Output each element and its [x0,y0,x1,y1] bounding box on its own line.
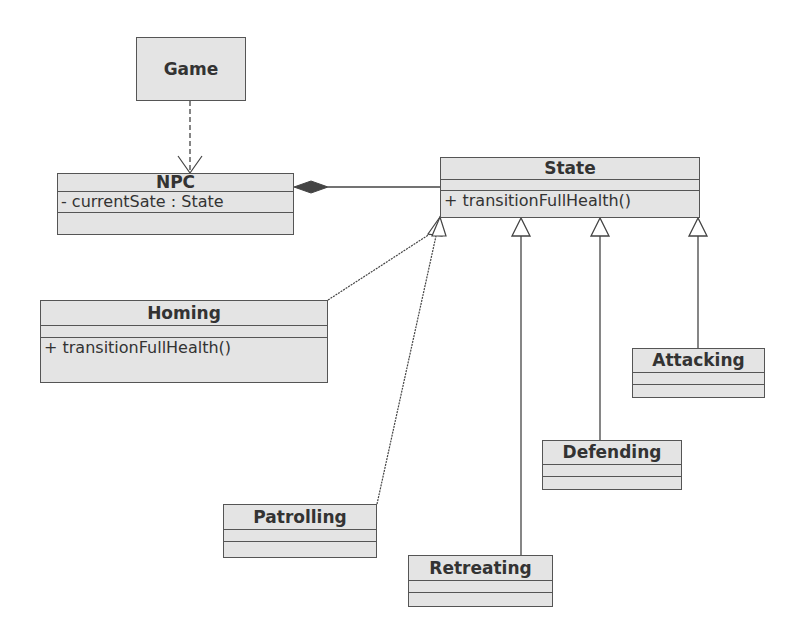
class-defending[interactable]: Defending [542,440,682,490]
class-operations [224,542,376,556]
class-name: Homing [41,301,327,326]
hollow-triangle-icon [689,218,707,236]
class-name: Game [164,59,219,80]
class-retreating[interactable]: Retreating [408,555,553,607]
class-attacking[interactable]: Attacking [632,348,765,398]
class-name: State [441,158,699,180]
class-patrolling[interactable]: Patrolling [223,504,377,558]
hollow-triangle-icon [591,218,609,236]
class-operations: + transitionFullHealth() [41,338,327,358]
class-homing[interactable]: Homing + transitionFullHealth() [40,300,328,383]
class-attributes [41,326,327,338]
hollow-triangle-icon [512,218,530,236]
class-attributes [441,180,699,191]
generalization-line-patrolling [377,236,436,504]
class-attributes: - currentSate : State [58,192,293,213]
class-operations [543,477,681,488]
attribute: - currentSate : State [61,192,293,212]
operation: + transitionFullHealth() [44,338,327,358]
class-name: Defending [543,441,681,465]
class-operations [633,385,764,396]
class-state[interactable]: State + transitionFullHealth() [440,157,700,218]
uml-diagram: Game NPC - currentSate : State State + t… [0,0,805,639]
class-name: NPC [58,174,293,192]
class-name: Attacking [633,349,764,373]
class-name: Retreating [409,556,552,581]
class-operations [58,213,293,222]
class-npc[interactable]: NPC - currentSate : State [57,173,294,235]
class-operations [409,593,552,605]
class-attributes [633,373,764,385]
operation: + transitionFullHealth() [444,191,699,211]
class-attributes [409,581,552,593]
filled-diamond-icon [294,181,328,193]
generalization-line-homing [328,232,433,300]
class-operations: + transitionFullHealth() [441,191,699,211]
class-game[interactable]: Game [136,37,246,101]
class-name: Patrolling [224,505,376,530]
class-attributes [224,530,376,542]
class-attributes [543,465,681,477]
